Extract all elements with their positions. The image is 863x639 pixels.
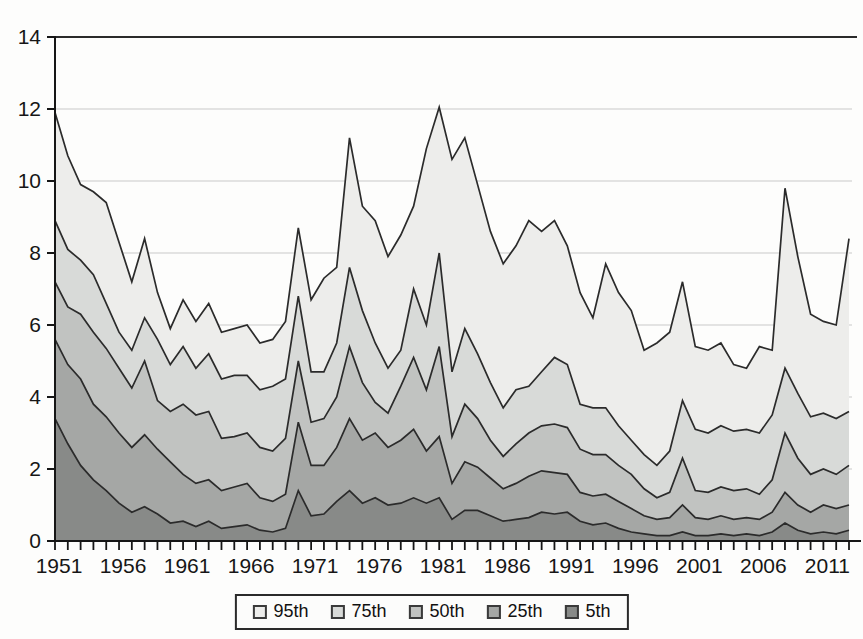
x-tick-label-1996: 1996: [612, 554, 659, 577]
legend-label-5th: 5th: [586, 601, 611, 622]
x-tick-label-1956: 1956: [100, 554, 147, 577]
x-tick-label-1991: 1991: [548, 554, 595, 577]
y-tick-label-4: 4: [29, 385, 41, 408]
x-tick-label-2006: 2006: [740, 554, 787, 577]
legend-item-75th: 75th: [330, 601, 386, 622]
x-tick-label-1976: 1976: [356, 554, 403, 577]
legend-label-75th: 75th: [351, 601, 386, 622]
legend-swatch-95th: [252, 605, 266, 619]
y-tick-label-2: 2: [29, 457, 41, 480]
y-axis: 02468101214: [18, 25, 55, 552]
legend-label-95th: 95th: [273, 601, 308, 622]
x-tick-label-2001: 2001: [676, 554, 723, 577]
legend-swatch-75th: [330, 605, 344, 619]
legend-item-5th: 5th: [565, 601, 611, 622]
x-tick-label-1951: 1951: [36, 554, 83, 577]
y-tick-label-14: 14: [18, 25, 42, 48]
legend-item-95th: 95th: [252, 601, 308, 622]
legend-swatch-5th: [565, 605, 579, 619]
figure: 02468101214 1951195619611966197119761981…: [0, 0, 863, 639]
plot-areas: [55, 107, 849, 541]
percentile-area-chart: 02468101214 1951195619611966197119761981…: [0, 0, 863, 590]
x-tick-label-1981: 1981: [420, 554, 467, 577]
x-tick-label-2011: 2011: [805, 554, 850, 577]
legend: 95th 75th 50th 25th 5th: [234, 594, 628, 630]
y-tick-label-6: 6: [29, 313, 41, 336]
legend-label-25th: 25th: [508, 601, 543, 622]
legend-swatch-50th: [408, 605, 422, 619]
x-tick-label-1986: 1986: [484, 554, 531, 577]
y-tick-label-0: 0: [29, 529, 41, 552]
x-tick-label-1961: 1961: [164, 554, 211, 577]
y-tick-label-12: 12: [18, 97, 41, 120]
legend-item-50th: 50th: [408, 601, 464, 622]
y-tick-label-10: 10: [18, 169, 41, 192]
x-axis: 1951195619611966197119761981198619911996…: [36, 541, 861, 577]
y-tick-label-8: 8: [29, 241, 41, 264]
x-tick-label-1966: 1966: [228, 554, 275, 577]
legend-item-25th: 25th: [487, 601, 543, 622]
legend-swatch-25th: [487, 605, 501, 619]
legend-label-50th: 50th: [429, 601, 464, 622]
x-tick-label-1971: 1971: [292, 554, 339, 577]
